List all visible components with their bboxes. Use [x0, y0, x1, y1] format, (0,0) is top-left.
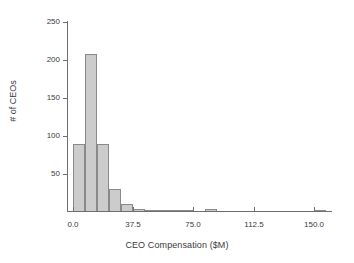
x-tick-label: 0.0	[53, 221, 93, 229]
y-tick-mark	[63, 136, 68, 137]
y-tick-label: 200	[32, 56, 60, 64]
x-axis-title: CEO Compensation ($M)	[0, 240, 354, 250]
x-axis-line	[68, 211, 332, 212]
x-tick-label: 150.0	[294, 221, 334, 229]
histogram-bar	[109, 189, 121, 212]
x-tick-mark	[254, 207, 255, 212]
y-tick-mark	[63, 98, 68, 99]
y-axis-title: # of CEOs	[8, 71, 18, 131]
x-tick-label: 75.0	[173, 221, 213, 229]
x-tick-mark	[133, 207, 134, 212]
x-tick-label: 112.5	[234, 221, 274, 229]
y-axis-line	[67, 21, 68, 212]
histogram-bar	[85, 54, 97, 212]
y-tick-label: 150	[32, 94, 60, 102]
y-tick-label: 250	[32, 18, 60, 26]
x-tick-label: 37.5	[113, 221, 153, 229]
y-tick-mark	[63, 60, 68, 61]
histogram-bar	[73, 144, 85, 212]
y-tick-label: 50	[32, 170, 60, 178]
histogram-figure: 50100150200250 0.037.575.0112.5150.0 # o…	[0, 0, 354, 263]
x-tick-mark	[193, 207, 194, 212]
y-tick-mark	[63, 22, 68, 23]
y-tick-mark	[63, 174, 68, 175]
x-tick-mark	[314, 207, 315, 212]
histogram-bar	[97, 144, 109, 212]
y-tick-label: 100	[32, 132, 60, 140]
x-tick-mark	[73, 207, 74, 212]
bars-layer	[68, 22, 330, 212]
